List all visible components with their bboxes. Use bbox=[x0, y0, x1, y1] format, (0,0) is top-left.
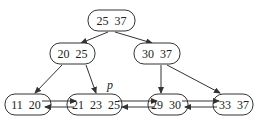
pointer-label-p: p bbox=[106, 78, 113, 92]
node-leaf-2-keys: 21 23 25 bbox=[72, 98, 120, 112]
node-root: 25 37 bbox=[88, 10, 135, 31]
edge-root-to-inner-left bbox=[81, 32, 108, 43]
node-leaf-3: 29 30 bbox=[148, 94, 188, 115]
edge-inner-left-to-leaf-2 bbox=[86, 65, 96, 93]
node-root-keys: 25 37 bbox=[97, 14, 127, 28]
node-inner-right: 30 37 bbox=[134, 43, 180, 64]
node-leaf-4-keys: 33 37 bbox=[219, 98, 249, 112]
node-leaf-1-keys: 11 20 bbox=[11, 98, 41, 112]
edge-root-to-inner-right bbox=[115, 32, 152, 43]
edge-inner-right-to-leaf-4 bbox=[167, 65, 220, 93]
node-inner-right-keys: 30 37 bbox=[142, 47, 172, 61]
node-leaf-2: 21 23 25 bbox=[67, 94, 122, 115]
node-leaf-3-keys: 29 30 bbox=[151, 98, 181, 112]
node-leaf-1: 11 20 bbox=[5, 94, 51, 115]
edge-inner-left-to-leaf-1 bbox=[35, 65, 62, 93]
sibling-links bbox=[42, 101, 219, 107]
node-inner-left-keys: 20 25 bbox=[58, 47, 88, 61]
node-inner-left: 20 25 bbox=[50, 43, 95, 64]
node-leaf-4: 33 37 bbox=[213, 94, 253, 115]
b-plus-tree-diagram: 25 37 20 25 30 37 11 20 21 23 25 29 30 3… bbox=[0, 0, 260, 127]
